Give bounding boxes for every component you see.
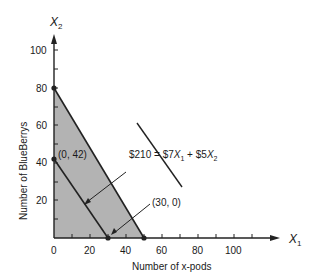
point-label-30-0: (30, 0)	[152, 198, 181, 208]
y-tick-label: 40	[36, 158, 47, 168]
x-var-letter: X	[289, 232, 297, 246]
y-tick-label: 60	[36, 121, 47, 131]
eq-mid: + $5	[184, 149, 207, 160]
y-tick-label: 20	[36, 196, 47, 206]
point-50-0	[141, 235, 146, 240]
x-axis-variable: X1	[289, 233, 301, 248]
eq-sub2: 2	[214, 155, 218, 162]
x-axis-arrow-icon	[270, 235, 280, 241]
point-0-42	[51, 156, 56, 161]
x-tick-label: 20	[84, 246, 95, 256]
iso-profit-equation: $210 = $7X1 + $5X2	[129, 150, 217, 162]
x-tick-label: 40	[120, 246, 131, 256]
x-tick-label: 100	[225, 246, 242, 256]
y-tick-label: 80	[36, 84, 47, 94]
chart-canvas	[0, 0, 317, 280]
point-30-0	[105, 235, 110, 240]
x-tick-label: 60	[156, 246, 167, 256]
x-tick-label: 0	[51, 246, 57, 256]
y-tick-label: 100	[30, 46, 47, 56]
y-var-sub: 2	[58, 22, 62, 31]
y-var-letter: X	[50, 15, 58, 29]
x-var-sub: 1	[297, 239, 301, 248]
x-tick-label: 80	[192, 246, 203, 256]
point-0-80	[51, 85, 56, 90]
eq-prefix: $210 = $7	[129, 149, 174, 160]
y-axis-title: Number of BlueBerrys	[19, 122, 29, 220]
y-axis-arrow-icon	[51, 34, 57, 44]
y-axis-variable: X2	[50, 16, 62, 31]
eq-x2: X	[207, 149, 214, 160]
point-label-0-42: (0, 42)	[58, 150, 87, 160]
x-axis-title: Number of x-pods	[132, 262, 211, 272]
